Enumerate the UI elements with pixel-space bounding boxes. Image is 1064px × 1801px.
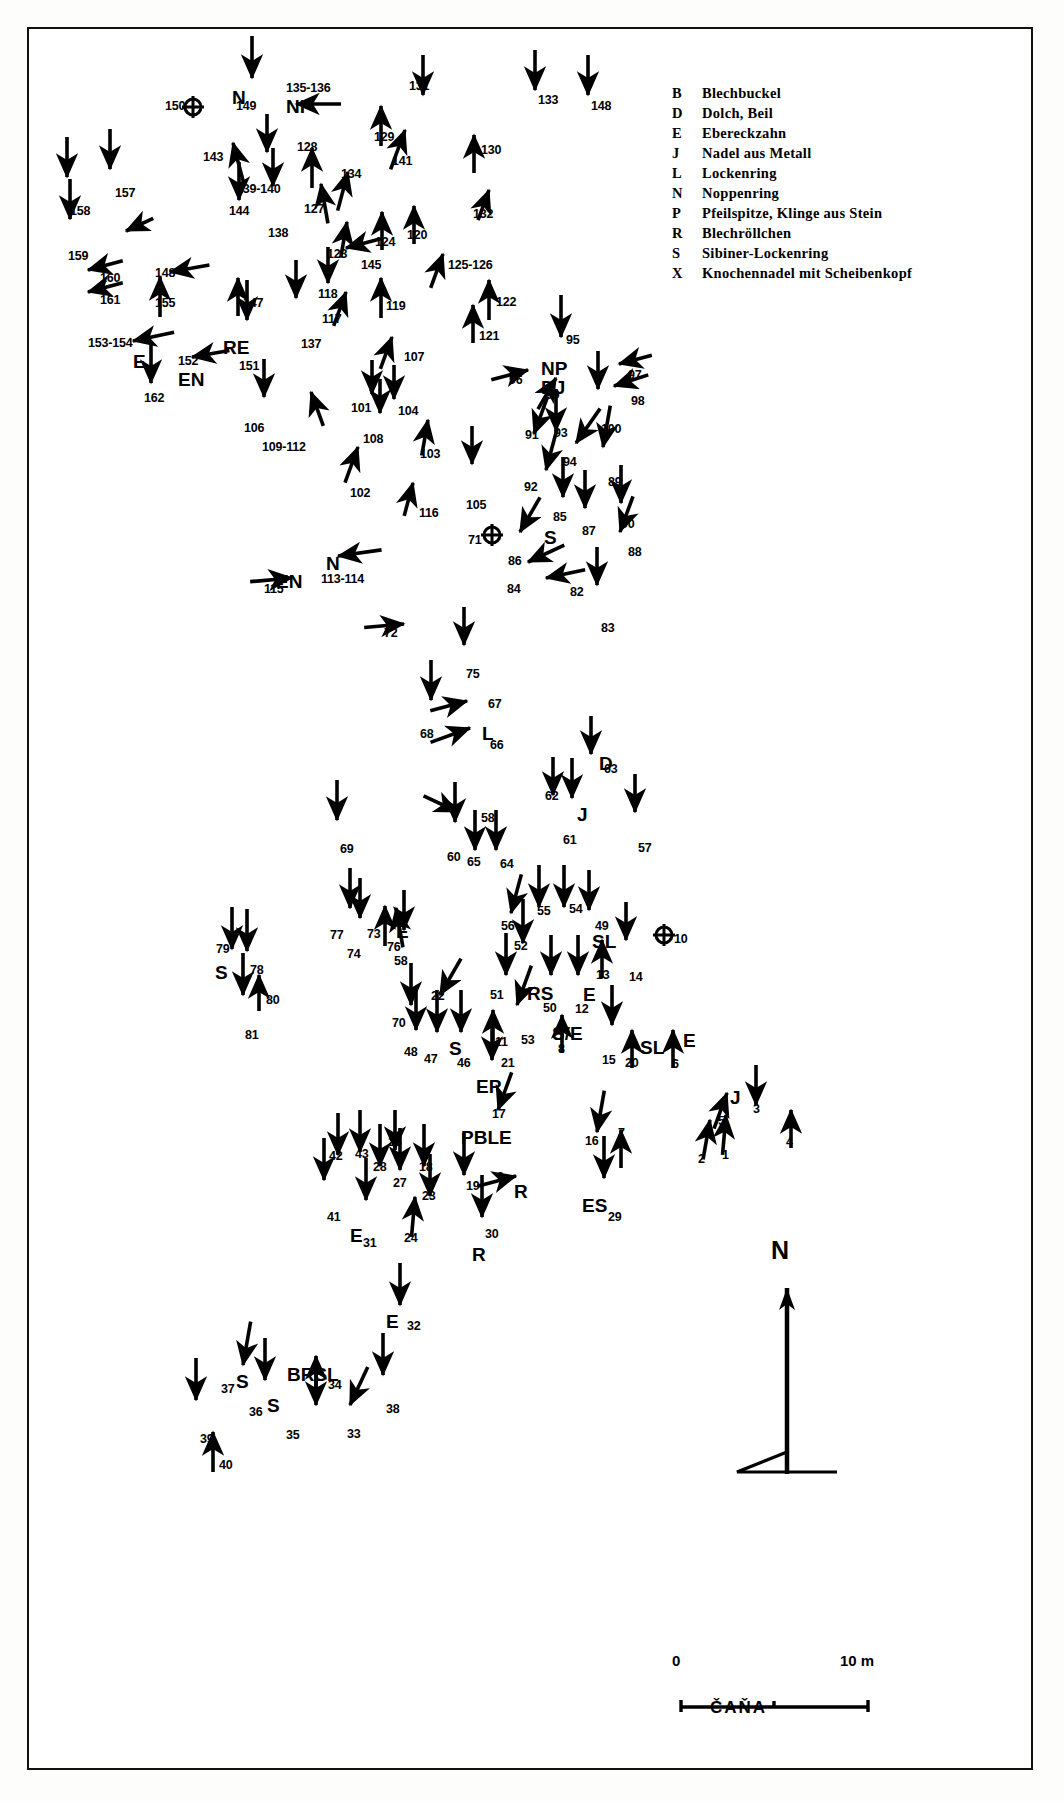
legend-key: S [672, 244, 702, 264]
grave-number-label: 132 [473, 208, 493, 221]
grave-number-label: 86 [508, 555, 522, 568]
grave-number-label: 37 [221, 1383, 235, 1396]
grave-number-label: 55 [537, 905, 551, 918]
grave-number-label: 85 [553, 511, 567, 524]
grave-orientation-arrow [243, 1322, 251, 1365]
grave-number-label: 134 [341, 168, 361, 181]
grave-orientation-arrow [520, 497, 540, 532]
legend-key: E [672, 124, 702, 144]
grave-artifact-code: NP [286, 97, 312, 116]
grave-number-label: 88 [628, 546, 642, 559]
legend-description: Nadel aus Metall [702, 144, 912, 164]
grave-orientation-arrow [597, 1091, 604, 1132]
grave-number-label: 101 [351, 402, 371, 415]
grave-number-label: 43 [355, 1148, 369, 1161]
legend-key: J [672, 144, 702, 164]
grave-number-label: 24 [404, 1232, 418, 1245]
grave-number-label: 31 [363, 1237, 377, 1250]
grave-number-label: 87 [582, 525, 596, 538]
grave-number-label: 148 [591, 100, 611, 113]
grave-orientation-arrow [424, 796, 458, 812]
grave-number-label: 57 [638, 842, 652, 855]
grave-number-label: 130 [481, 144, 501, 157]
grave-artifact-code: EN [178, 370, 204, 389]
legend-description: Pfeilspitze, Klinge aus Stein [702, 204, 912, 224]
grave-number-label: 79 [216, 943, 230, 956]
grave-number-label: 153-154 [88, 337, 132, 350]
grave-number-label: 81 [245, 1029, 259, 1042]
grave-number-label: 162 [144, 392, 164, 405]
grave-orientation-arrow [576, 409, 600, 443]
grave-number-label: 131 [409, 80, 429, 93]
grave-number-label: 113-114 [321, 573, 364, 586]
grave-number-label: 106 [244, 422, 264, 435]
grave-number-label: 47 [424, 1053, 438, 1066]
grave-number-label: 65 [467, 856, 481, 869]
grave-orientation-arrow [404, 483, 413, 516]
grave-number-label: 41 [327, 1211, 341, 1224]
legend-row: EEbereckzahn [672, 124, 912, 144]
grave-number-label: 82 [570, 586, 584, 599]
grave-number-label: 21 [501, 1057, 515, 1070]
legend-description: Lockenring [702, 164, 912, 184]
grave-artifact-code: BRSL [287, 1365, 339, 1384]
grave-number-label: 133 [538, 94, 558, 107]
legend-row: DDolch, Beil [672, 104, 912, 124]
grave-number-label: 141 [392, 155, 412, 168]
legend-description: Dolch, Beil [702, 104, 912, 124]
grave-number-label: 150 [165, 100, 185, 113]
grave-number-label: 6 [672, 1058, 679, 1071]
grave-number-label: 119 [386, 300, 406, 313]
grave-number-label: 7 [618, 1127, 625, 1140]
grave-number-label: 27 [393, 1177, 407, 1190]
grave-artifact-code: J [577, 805, 588, 824]
grave-orientation-arrow [311, 392, 323, 426]
grave-number-label: 128 [297, 141, 317, 154]
legend-description: Blechröllchen [702, 224, 912, 244]
grave-number-label: 23 [422, 1190, 436, 1203]
grave-artifact-code: E [386, 1312, 399, 1331]
grave-number-label: 77 [330, 929, 344, 942]
grave-number-label: 105 [466, 499, 486, 512]
grave-number-label: 120 [407, 229, 427, 242]
grave-number-label: 116 [419, 507, 439, 520]
grave-number-label: 92 [524, 481, 538, 494]
grave-number-label: 20 [625, 1057, 639, 1070]
grave-number-label: 143 [203, 151, 223, 164]
grave-orientation-arrow [338, 550, 382, 556]
grave-number-label: 38 [386, 1403, 400, 1416]
grave-orientation-arrow [619, 355, 652, 364]
grave-number-label: 97 [628, 369, 642, 382]
legend-key: B [672, 84, 702, 104]
grave-number-label: 93 [554, 427, 568, 440]
grave-number-label: 36 [249, 1406, 263, 1419]
grave-number-label: 103 [420, 448, 440, 461]
legend-row: JNadel aus Metall [672, 144, 912, 164]
legend-row: LLockenring [672, 164, 912, 184]
grave-number-label: 53 [521, 1034, 535, 1047]
legend-description: Ebereckzahn [702, 124, 912, 144]
grave-number-label: 15 [602, 1054, 616, 1067]
grave-artifact-code: ES [582, 1196, 607, 1215]
grave-artifact-code: S [236, 1372, 249, 1391]
grave-number-label: 75 [466, 668, 480, 681]
grave-number-label: 144 [229, 205, 249, 218]
grave-artifact-code: R [472, 1245, 486, 1264]
grave-number-label: 58 [481, 812, 495, 825]
grave-number-label: 108 [363, 433, 383, 446]
grave-number-label: 73 [367, 928, 381, 941]
grave-number-label: 109-112 [262, 441, 306, 454]
grave-artifact-code: E [133, 352, 146, 371]
grave-number-label: 30 [485, 1228, 499, 1241]
grave-artifact-code: EN [276, 572, 302, 591]
grave-artifact-code: DJ [541, 378, 565, 397]
grave-number-label: 13 [596, 969, 610, 982]
grave-orientation-arrow [546, 570, 585, 578]
grave-number-label: 122 [496, 296, 516, 309]
grave-number-label: 80 [266, 994, 280, 1007]
grave-number-label: 70 [392, 1017, 406, 1030]
grave-number-label: 124 [375, 236, 395, 249]
grave-orientation-arrow [431, 728, 470, 742]
grave-artifact-code: S [215, 963, 228, 982]
grave-number-label: 22 [431, 990, 445, 1003]
